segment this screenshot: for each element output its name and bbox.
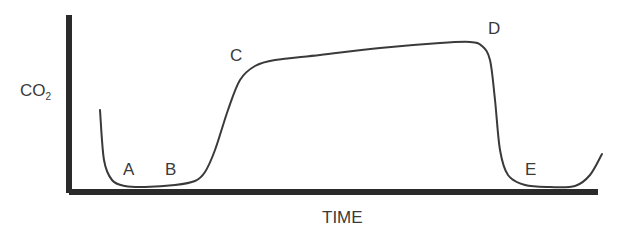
point-label-e: E	[525, 161, 536, 178]
point-label-c: C	[230, 47, 242, 64]
point-label-b: B	[165, 161, 176, 178]
x-axis-label: TIME	[322, 209, 363, 226]
point-label-d: D	[488, 20, 500, 37]
y-axis-label: CO2	[20, 82, 51, 102]
capnogram-chart	[0, 0, 628, 247]
x-axis	[69, 189, 598, 195]
y-axis	[66, 15, 72, 193]
point-label-a: A	[123, 161, 134, 178]
